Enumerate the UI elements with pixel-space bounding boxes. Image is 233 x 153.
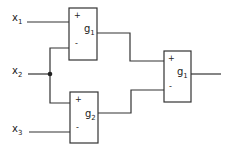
- right-plus-sign: +: [168, 55, 175, 63]
- input-label-x3: x3: [12, 124, 22, 137]
- top-block-label: g1: [84, 24, 95, 37]
- input-label-x2: x2: [12, 66, 22, 79]
- diagram-wires: [0, 0, 233, 153]
- input-label-x1: x1: [12, 13, 22, 26]
- right-minus-sign: -: [169, 83, 172, 91]
- top-plus-sign: +: [74, 12, 81, 20]
- bottom-block-label: g2: [85, 109, 96, 122]
- right-block-label: g1: [177, 67, 188, 80]
- block-diagram: x1 x2 x3 + - g1 + - g2 + - g1: [0, 0, 233, 153]
- bottom-plus-sign: +: [75, 96, 82, 104]
- bottom-minus-sign: -: [76, 124, 79, 132]
- top-minus-sign: -: [75, 40, 78, 48]
- junction-dot: [48, 72, 53, 77]
